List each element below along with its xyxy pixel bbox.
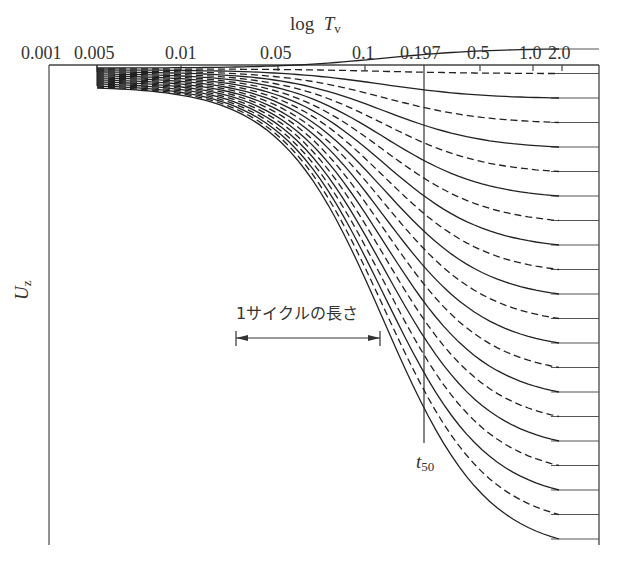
curve-dashed xyxy=(97,81,559,368)
x-axis-title: log Tv xyxy=(290,14,341,35)
cycle-length-arrow xyxy=(236,331,380,346)
tick-label-0.05: 0.05 xyxy=(260,44,292,62)
y-axis-title: Uz xyxy=(12,280,33,300)
curve-family xyxy=(97,49,559,539)
tick-label-2.0: 2.0 xyxy=(548,44,571,62)
curve-dashed xyxy=(97,85,559,466)
curve-dashed xyxy=(97,79,559,319)
tick-label-0.5: 0.5 xyxy=(467,44,490,62)
curve-solid xyxy=(97,82,559,392)
tick-label-0.197: 0.197 xyxy=(400,44,441,62)
tick-label-1.0: 1.0 xyxy=(519,44,542,62)
cycle-length-label: 1サイクルの長さ xyxy=(236,306,358,322)
x-axis-title-prefix: log xyxy=(290,13,314,34)
curve-solid xyxy=(97,86,559,490)
tick-label-0.1: 0.1 xyxy=(352,44,375,62)
curve-solid xyxy=(97,76,559,245)
tick-label-0.001: 0.001 xyxy=(21,44,62,62)
x-axis-title-var: T xyxy=(324,13,335,34)
tick-label-0.01: 0.01 xyxy=(165,44,197,62)
y-axis-title-var: U xyxy=(11,286,32,300)
t50-label-sub: 50 xyxy=(421,459,434,474)
consolidation-curves-plot xyxy=(0,0,630,561)
curve-dashed xyxy=(97,87,559,515)
curve-solid xyxy=(97,84,559,441)
x-axis-title-sub: v xyxy=(334,21,341,36)
y-axis-title-sub: z xyxy=(19,280,34,286)
tick-label-0.005: 0.005 xyxy=(74,44,115,62)
t50-label: t50 xyxy=(416,452,434,473)
